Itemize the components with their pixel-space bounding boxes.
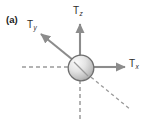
vector-label-tz-subscript: z: [79, 10, 82, 17]
central-node-sphere: [68, 55, 94, 81]
vector-label-ty: Ty: [27, 20, 36, 30]
vector-label-tx-subscript: x: [135, 63, 138, 70]
vector-label-ty-subscript: y: [33, 24, 36, 31]
axis-y-negative-dashed: [86, 73, 131, 110]
vector-ty-arrow: [41, 34, 73, 60]
vector-label-tz: Tz: [73, 6, 82, 16]
diagram-canvas: [0, 0, 149, 124]
figure-container: (a) Ty Tz Tx: [0, 0, 149, 124]
vector-label-tx: Tx: [129, 59, 138, 69]
panel-label: (a): [6, 15, 18, 25]
